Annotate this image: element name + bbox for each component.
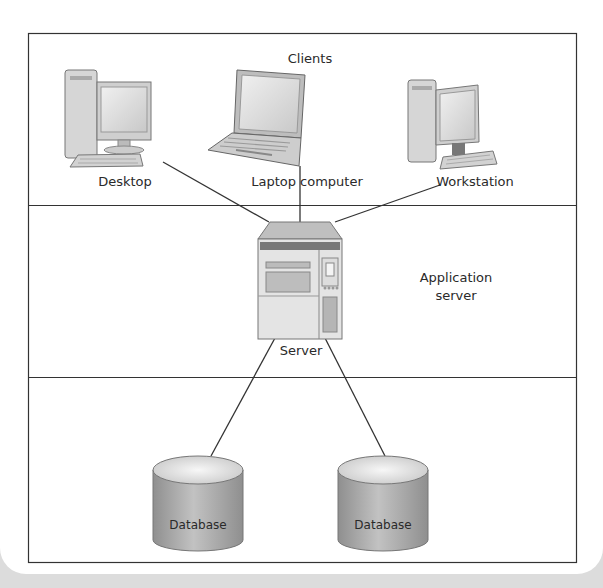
workstation-icon: [408, 80, 497, 169]
tier-label-application-line2: server: [406, 288, 506, 304]
node-label-desktop: Desktop: [85, 174, 165, 190]
node-label-laptop: Laptop computer: [242, 174, 372, 190]
node-label-server: Server: [266, 343, 336, 359]
diagram-canvas: [0, 0, 603, 588]
edge-workstation-server: [335, 185, 440, 222]
database-cylinder-icon: [153, 456, 243, 551]
edge-desktop-server: [163, 162, 269, 222]
architecture-diagram: Clients Desktop Laptop computer Workstat…: [0, 0, 603, 588]
tier-label-clients: Clients: [280, 51, 340, 67]
database-cylinder-icon: [338, 456, 428, 551]
laptop-icon: [208, 70, 305, 166]
server-icon: [258, 222, 342, 339]
desktop-computer-icon: [65, 70, 151, 167]
node-label-database-2: Database: [343, 518, 423, 532]
tier-label-application-line1: Application: [406, 270, 506, 286]
node-label-workstation: Workstation: [425, 174, 525, 190]
node-label-database-1: Database: [158, 518, 238, 532]
